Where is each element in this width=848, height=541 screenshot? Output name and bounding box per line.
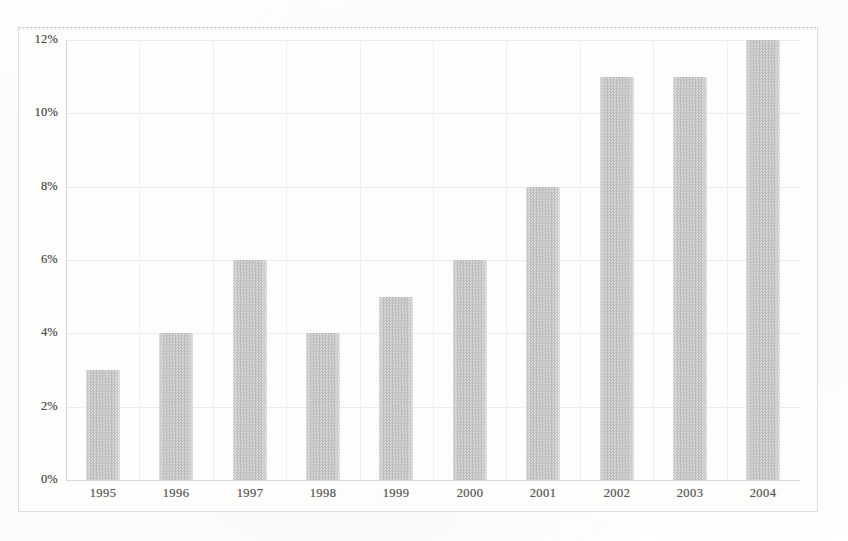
bar xyxy=(233,260,267,480)
gridline-vertical xyxy=(727,40,728,480)
x-axis-tick-label: 2003 xyxy=(653,486,727,501)
y-axis-tick-label: 0% xyxy=(14,472,58,487)
x-axis-tick-label: 2001 xyxy=(506,486,580,501)
x-axis-tick-label: 1995 xyxy=(66,486,140,501)
gridline-vertical xyxy=(360,40,361,480)
x-axis-tick-label: 2000 xyxy=(433,486,507,501)
bar xyxy=(159,333,193,480)
gridline-vertical xyxy=(286,40,287,480)
y-axis-tick-label: 2% xyxy=(14,399,58,414)
bar xyxy=(379,297,413,480)
y-axis-line xyxy=(66,40,67,481)
x-axis-tick-label: 1999 xyxy=(359,486,433,501)
bar xyxy=(526,187,560,480)
bar xyxy=(746,40,780,480)
bar xyxy=(453,260,487,480)
scanned-page: 0%2%4%6%8%10%12% 19951996199719981999200… xyxy=(0,0,848,541)
x-axis-tick-labels: 1995199619971998199920002001200220032004 xyxy=(66,486,800,508)
x-axis-tick-label: 2004 xyxy=(726,486,800,501)
y-axis-tick-label: 10% xyxy=(14,105,58,120)
gridline-vertical xyxy=(139,40,140,480)
y-axis-tick-labels: 0%2%4%6%8%10%12% xyxy=(8,40,58,481)
gridline-vertical xyxy=(213,40,214,480)
gridline-vertical xyxy=(580,40,581,480)
y-axis-tick-label: 8% xyxy=(14,179,58,194)
gridline-vertical xyxy=(433,40,434,480)
y-axis-tick-label: 12% xyxy=(14,32,58,47)
bar xyxy=(306,333,340,480)
gridline-vertical xyxy=(653,40,654,480)
bar xyxy=(600,77,634,480)
x-axis-tick-label: 1996 xyxy=(139,486,213,501)
x-axis-line xyxy=(66,480,800,481)
plot-area xyxy=(66,40,800,480)
bar xyxy=(86,370,120,480)
y-axis-tick-label: 6% xyxy=(14,252,58,267)
bar xyxy=(673,77,707,480)
y-axis-tick-label: 4% xyxy=(14,325,58,340)
x-axis-tick-label: 1998 xyxy=(286,486,360,501)
x-axis-tick-label: 2002 xyxy=(580,486,654,501)
gridline-vertical xyxy=(506,40,507,480)
x-axis-tick-label: 1997 xyxy=(213,486,287,501)
